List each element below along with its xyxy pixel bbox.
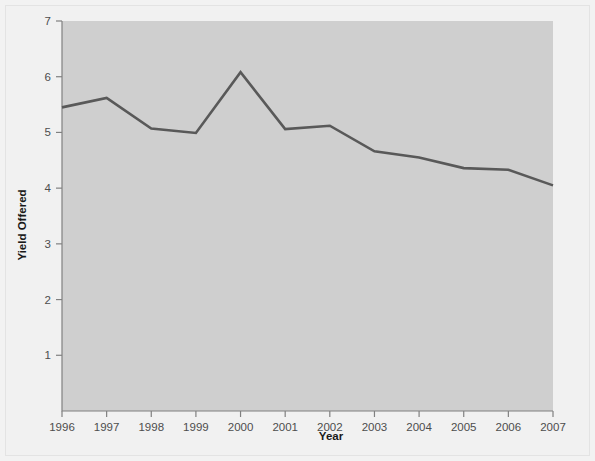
y-tick-label: 2 — [45, 294, 51, 306]
x-tick-label: 1999 — [183, 421, 209, 433]
y-tick-label: 4 — [45, 182, 52, 194]
y-tick-label: 3 — [45, 238, 51, 250]
x-tick-label: 2004 — [406, 421, 432, 433]
x-tick-label: 1997 — [94, 421, 120, 433]
plot-background — [62, 21, 553, 411]
y-tick-label: 1 — [45, 349, 51, 361]
x-tick-label: 1998 — [138, 421, 164, 433]
x-tick-label: 2003 — [362, 421, 388, 433]
y-tick-label: 6 — [45, 71, 51, 83]
x-tick-label: 1996 — [49, 421, 75, 433]
x-axis-tick-labels: 1996199719981999200020012002200320042005… — [49, 421, 566, 433]
y-axis-tick-labels: 1234567 — [45, 15, 52, 361]
x-tick-label: 2007 — [540, 421, 566, 433]
x-tick-label: 2006 — [496, 421, 522, 433]
y-axis-title: Yield Offered — [16, 189, 28, 260]
chart-figure: 1234567 19961997199819992000200120022003… — [0, 0, 595, 461]
x-tick-label: 2005 — [451, 421, 477, 433]
y-tick-label: 7 — [45, 15, 51, 27]
x-axis-title: Year — [319, 430, 344, 442]
line-chart: 1234567 19961997199819992000200120022003… — [0, 0, 595, 461]
x-tick-label: 2000 — [228, 421, 254, 433]
plot-area — [62, 21, 553, 411]
y-tick-label: 5 — [45, 126, 51, 138]
x-tick-label: 2001 — [272, 421, 298, 433]
